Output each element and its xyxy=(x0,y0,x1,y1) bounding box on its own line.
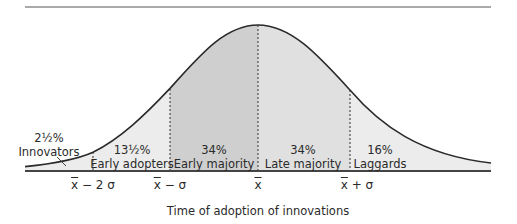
axis-title: Time of adoption of innovations xyxy=(167,204,349,218)
segment-label: Early majority xyxy=(174,157,254,171)
segment-late-majority: 34% Late majority xyxy=(265,143,341,171)
tick-mean: x xyxy=(254,178,261,192)
segment-early-adopters: 13½% Early adopters xyxy=(90,143,174,171)
tick-minus-2sigma: x − 2 σ xyxy=(71,178,115,192)
mean-symbol: x xyxy=(254,178,261,192)
tick-text: + σ xyxy=(348,178,373,192)
tick-text: − 2 σ xyxy=(78,178,115,192)
tick-minus-sigma: x − σ xyxy=(154,178,186,192)
tick-plus-sigma: x + σ xyxy=(341,178,373,192)
segment-laggards: 16% Laggards xyxy=(354,143,407,171)
segment-label: Early adopters xyxy=(90,157,174,171)
tick-text: − σ xyxy=(161,178,186,192)
segment-innovators: 2½% Innovators xyxy=(18,131,79,159)
segment-percent: 34% xyxy=(174,143,254,157)
segment-early-majority: 34% Early majority xyxy=(174,143,254,171)
segment-label: Innovators xyxy=(18,145,79,159)
segment-percent: 13½% xyxy=(90,143,174,157)
segment-label: Late majority xyxy=(265,157,341,171)
segment-percent: 34% xyxy=(265,143,341,157)
segment-percent: 16% xyxy=(354,143,407,157)
segment-percent: 2½% xyxy=(18,131,79,145)
segment-label: Laggards xyxy=(354,157,407,171)
